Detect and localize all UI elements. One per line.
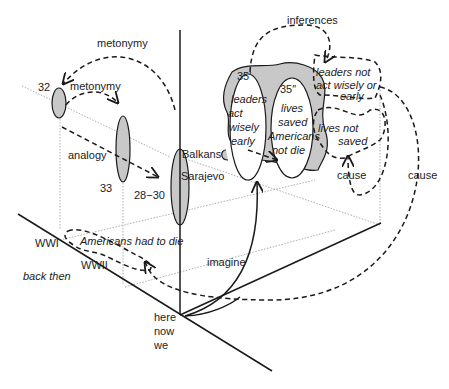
svg-text:leaders: leaders — [231, 93, 268, 105]
label-sarajevo: Sarajevo — [181, 170, 224, 182]
label-balkans: Balkans — [182, 148, 222, 160]
ellipse-33 — [116, 116, 130, 182]
svg-text:saved: saved — [338, 135, 368, 147]
label-here-now-we: here now we — [153, 311, 176, 351]
label-wwii: WWII — [81, 259, 108, 271]
svg-text:here: here — [154, 311, 176, 323]
svg-text:leaders not: leaders not — [316, 66, 371, 78]
label-cause-inner: cause — [337, 169, 366, 181]
ellipse-32 — [52, 88, 66, 118]
label-33: 33 — [100, 182, 112, 194]
label-metonymy-mid: metonymy — [70, 80, 121, 92]
label-back-then: back then — [23, 270, 71, 282]
perspective-guides — [22, 86, 380, 287]
label-35-prime: 35′ — [237, 70, 251, 82]
label-analogy: analogy — [68, 149, 107, 161]
svg-text:we: we — [153, 339, 168, 351]
blob-lobe — [222, 150, 228, 160]
label-cause-outer: cause — [408, 169, 437, 181]
svg-text:lives: lives — [281, 102, 304, 114]
label-americans-had-to-die: Americans had to die — [79, 235, 183, 247]
conceptual-blend-diagram: metonymy metonymy 32 analogy 33 28−30 Ba… — [0, 0, 449, 389]
svg-text:now: now — [154, 325, 174, 337]
svg-text:early: early — [231, 135, 256, 147]
svg-text:saved: saved — [278, 116, 308, 128]
label-35-double-prime: 35″ — [280, 83, 296, 95]
label-leaders-not: leaders not act wisely or early — [316, 66, 378, 102]
guide-line — [22, 86, 170, 157]
svg-text:lives not: lives not — [318, 122, 359, 134]
metonymy-mid-arrow — [66, 92, 118, 105]
label-32: 32 — [38, 81, 50, 93]
label-wwi: WWI — [35, 237, 59, 249]
svg-text:act: act — [228, 107, 244, 119]
label-metonymy-top: metonymy — [97, 37, 148, 49]
depth-axis — [180, 223, 381, 315]
label-imagine: imagine — [207, 256, 246, 268]
svg-text:wisely: wisely — [229, 121, 260, 133]
label-28-30: 28−30 — [134, 189, 165, 201]
svg-text:not die: not die — [272, 144, 305, 156]
svg-text:Americans: Americans — [267, 130, 320, 142]
label-inferences: inferences — [287, 14, 338, 26]
svg-text:early: early — [340, 90, 365, 102]
